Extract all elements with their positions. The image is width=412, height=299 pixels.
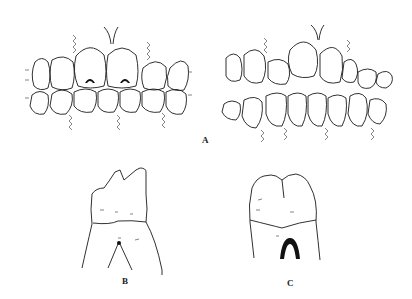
panel-label-b: B — [122, 276, 128, 286]
panel-label-c: C — [287, 278, 294, 288]
panel-label-a: A — [202, 135, 209, 145]
dental-illustration — [0, 0, 412, 299]
panel-a-left-arch — [25, 27, 192, 130]
panel-c-tooth — [249, 174, 320, 260]
panel-b-tooth — [82, 168, 162, 275]
panel-a-right-arch — [222, 25, 392, 142]
